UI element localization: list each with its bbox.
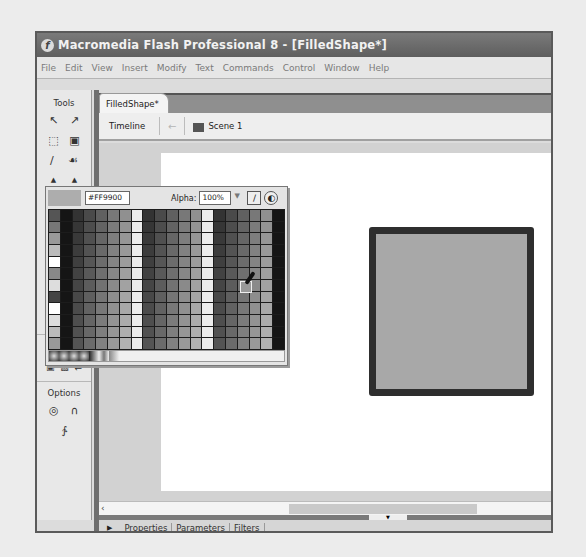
tab-properties[interactable]: Properties	[120, 523, 172, 533]
scene-label[interactable]: Scene 1	[208, 121, 242, 131]
divider	[184, 117, 185, 135]
snap-magnet-icon[interactable]: ∩	[71, 404, 79, 417]
menu-edit[interactable]: Edit	[65, 63, 82, 73]
text-tool-icon[interactable]: ▲	[72, 176, 77, 184]
free-transform-tool-icon[interactable]: ⬚	[48, 134, 58, 147]
smooth-icon[interactable]: ∱	[61, 424, 67, 437]
window-title: Macromedia Flash Professional 8 - [Fille…	[58, 38, 387, 52]
scroll-left-icon[interactable]: ‹	[101, 503, 105, 513]
flash-app-icon: f	[41, 39, 54, 52]
selection-tool-icon[interactable]: ↖	[49, 114, 58, 127]
menu-view[interactable]: View	[92, 63, 113, 73]
divider	[159, 117, 160, 135]
subselection-tool-icon[interactable]: ↗	[70, 114, 79, 127]
menu-bar: File Edit View Insert Modify Text Comman…	[37, 57, 551, 79]
color-preview	[48, 190, 81, 206]
color-picker-button[interactable]: ◐	[264, 191, 278, 205]
hex-input[interactable]: #FF9900	[85, 191, 130, 205]
alpha-dropdown-icon[interactable]: ▼	[234, 192, 244, 204]
menu-file[interactable]: File	[41, 63, 56, 73]
tab-filters[interactable]: Filters	[230, 523, 264, 533]
lasso-tool-icon[interactable]: ☙	[68, 154, 78, 167]
scene-clapper-icon	[193, 123, 204, 132]
horizontal-scrollbar[interactable]: ‹	[99, 501, 551, 515]
title-bar: f Macromedia Flash Professional 8 - [Fil…	[37, 33, 551, 57]
menu-text[interactable]: Text	[196, 63, 214, 73]
pen-tool-icon[interactable]: ▲	[51, 176, 56, 184]
menu-modify[interactable]: Modify	[157, 63, 187, 73]
timeline-button[interactable]: Timeline	[99, 121, 151, 131]
fill-transform-tool-icon[interactable]: ▣	[69, 134, 79, 147]
document-tab[interactable]: FilledShape*	[99, 93, 169, 113]
menu-control[interactable]: Control	[283, 63, 316, 73]
tools-header: Tools	[37, 90, 91, 108]
menu-window[interactable]: Window	[324, 63, 360, 73]
menu-help[interactable]: Help	[369, 63, 390, 73]
line-tool-icon[interactable]: ∕	[50, 154, 54, 167]
alpha-input[interactable]: 100%	[199, 191, 231, 205]
edit-bar: Timeline ← Scene 1	[99, 113, 551, 141]
no-color-button[interactable]: ∕	[247, 191, 261, 205]
menu-insert[interactable]: Insert	[122, 63, 148, 73]
color-swatches-popup: #FF9900 Alpha: 100% ▼ ∕ ◐	[45, 186, 288, 366]
gradient-swatches[interactable]	[48, 350, 285, 362]
alpha-label: Alpha:	[171, 194, 196, 203]
properties-panel-tabs: ▶ Properties Parameters Filters	[99, 520, 551, 533]
menu-commands[interactable]: Commands	[223, 63, 274, 73]
back-arrow-icon[interactable]: ←	[168, 121, 176, 132]
expand-triangle-icon[interactable]: ▶	[107, 524, 112, 532]
options-header: Options	[37, 388, 91, 398]
object-drawing-icon[interactable]: ◎	[49, 404, 59, 417]
scroll-thumb[interactable]	[289, 504, 477, 514]
filled-square-shape[interactable]	[369, 227, 534, 396]
tab-parameters[interactable]: Parameters	[172, 523, 230, 533]
